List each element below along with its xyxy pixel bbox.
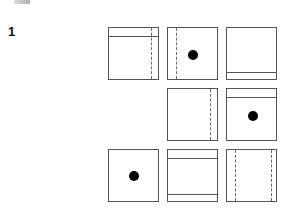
grid-cell-r2-c3 bbox=[226, 88, 277, 141]
horizontal-line bbox=[168, 194, 217, 195]
cropped-arrow-icon bbox=[14, 0, 30, 4]
dashed-vertical-line bbox=[176, 28, 177, 79]
horizontal-line bbox=[227, 97, 276, 98]
dashed-vertical-line bbox=[151, 28, 152, 79]
black-dot-icon bbox=[188, 50, 198, 60]
dashed-vertical-line bbox=[271, 150, 272, 201]
black-dot-icon bbox=[248, 111, 258, 121]
grid-cell-r1-c3 bbox=[226, 27, 277, 80]
puzzle-number: 1 bbox=[8, 25, 15, 39]
dashed-vertical-line bbox=[235, 150, 236, 201]
horizontal-line bbox=[227, 72, 276, 73]
grid-cell-r3-c1 bbox=[108, 149, 159, 202]
grid-cell-r1-c2 bbox=[167, 27, 218, 80]
grid-cell-r2-c2 bbox=[167, 88, 218, 141]
grid-cell-r1-c1 bbox=[108, 27, 159, 80]
grid-cell-r3-c3 bbox=[226, 149, 277, 202]
horizontal-line bbox=[168, 158, 217, 159]
dashed-vertical-line bbox=[210, 89, 211, 140]
black-dot-icon bbox=[129, 171, 139, 181]
grid-cell-r3-c2 bbox=[167, 149, 218, 202]
